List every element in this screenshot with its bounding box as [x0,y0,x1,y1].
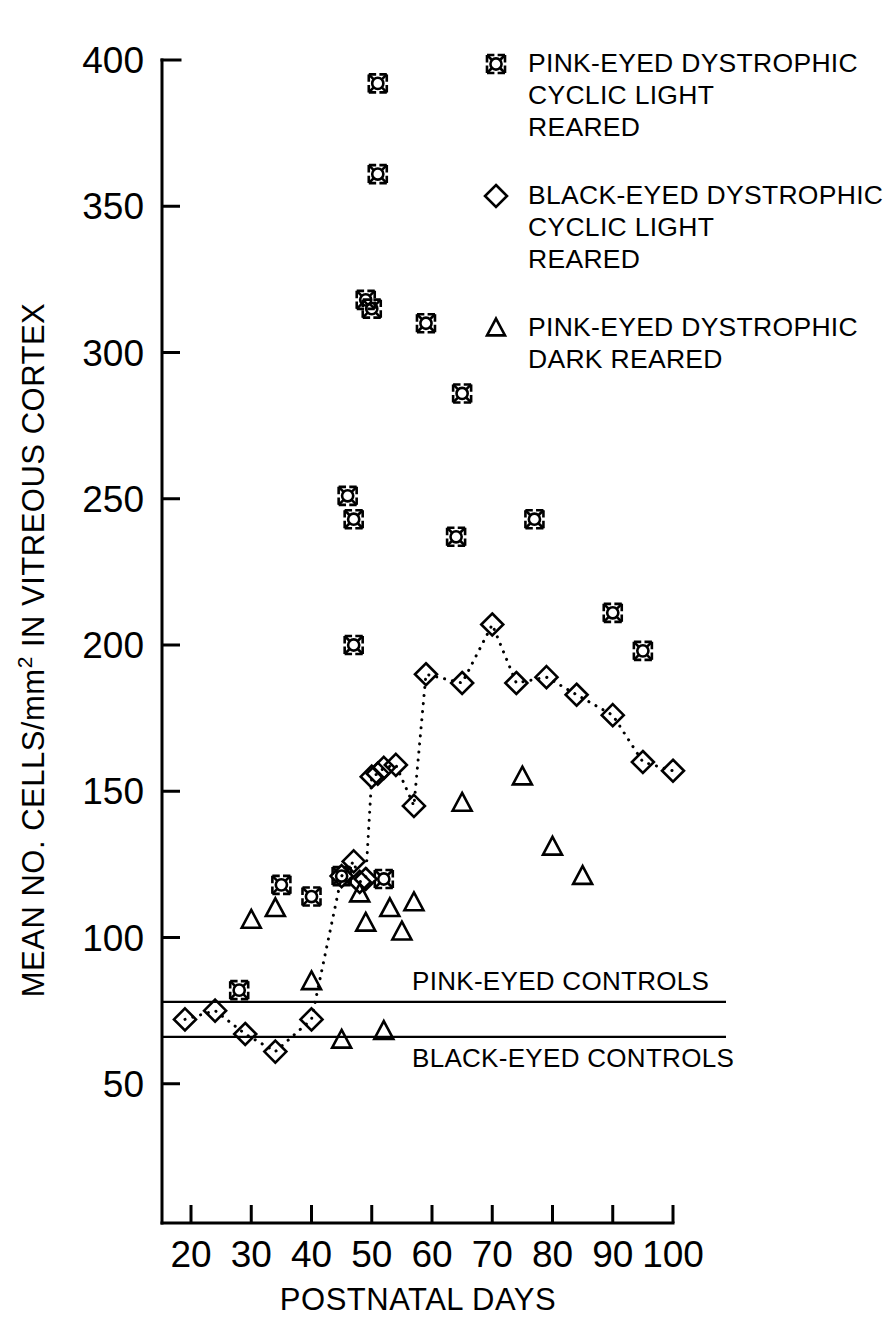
data-point-diamond [632,751,654,773]
data-point-star-square [339,487,357,505]
y-axis-title-tail: IN VITREOUS CORTEX [16,303,51,656]
x-tick-label: 40 [291,1234,332,1275]
x-tick-label: 100 [642,1234,704,1275]
y-tick-labels: 50100150200250300350400 [82,40,144,1105]
data-point-star-square [417,314,435,332]
data-point-star-square [345,636,363,654]
y-axis-title-superscript: 2 [13,656,36,668]
y-tick-label: 200 [82,625,144,666]
x-tick-label: 30 [231,1234,272,1275]
data-point-triangle [392,922,411,940]
data-point-triangle [513,767,532,785]
data-point-diamond [566,684,588,706]
x-axis-title: POSTNATAL DAYS [280,1282,556,1317]
x-tick-label: 90 [592,1234,633,1275]
reference-line-label: PINK-EYED CONTROLS [412,966,709,996]
x-tick-label: 20 [170,1234,211,1275]
y-axis-title: MEAN NO. CELLS/mm2 IN VITREOUS CORTEX [13,303,51,998]
data-point-triangle [242,910,261,928]
data-point-triangle [453,793,472,811]
data-point-star-square [604,604,622,622]
data-point-triangle [380,898,399,916]
legend-label-1-line-1: CYCLIC LIGHT [528,212,714,242]
data-point-star-square [303,888,321,906]
data-point-star-square [453,384,471,402]
legend-label-2-line-1: DARK REARED [528,344,723,374]
data-point-triangle [543,837,562,855]
x-tick-labels: 2030405060708090100 [170,1234,703,1275]
data-point-star-square [634,642,652,660]
legend-label-0-line-0: PINK-EYED DYSTROPHIC [528,48,858,78]
data-point-triangle [302,971,321,989]
y-tick-label: 400 [82,40,144,81]
x-tick-label: 80 [532,1234,573,1275]
data-point-diamond [415,663,437,685]
x-tick-label: 50 [351,1234,392,1275]
legend-label-2-line-0: PINK-EYED DYSTROPHIC [528,312,858,342]
legend-marker-2 [487,319,505,336]
svg-text:MEAN NO. CELLS/mm2 IN VITREOUS: MEAN NO. CELLS/mm2 IN VITREOUS CORTEX [13,303,51,998]
scatter-plot: 50100150200250300350400 2030405060708090… [0,0,884,1328]
y-tick-label: 150 [82,771,144,812]
data-point-star-square [369,165,387,183]
reference-line-label: BLACK-EYED CONTROLS [412,1043,734,1073]
data-point-star-square [272,876,290,894]
series-2-markers [242,767,592,1048]
data-point-diamond [481,614,503,636]
x-tick-label: 60 [411,1234,452,1275]
legend-marker-1 [485,185,507,207]
y-tick-label: 250 [82,479,144,520]
legend-marker-0 [487,55,505,73]
legend-label-1-line-0: BLACK-EYED DYSTROPHIC [528,180,883,210]
y-tick-label: 50 [103,1064,144,1105]
data-point-triangle [332,1030,351,1048]
data-point-star-square [525,510,543,528]
data-point-star-square [345,510,363,528]
data-point-triangle [356,913,375,931]
y-tick-label: 300 [82,333,144,374]
data-point-diamond [451,672,473,694]
y-axis-title-main: MEAN NO. CELLS/mm [16,668,51,997]
legend: PINK-EYED DYSTROPHICCYCLIC LIGHTREAREDBL… [485,48,883,374]
x-tick-label: 70 [472,1234,513,1275]
data-point-triangle [404,892,423,910]
reference-line-labels: PINK-EYED CONTROLSBLACK-EYED CONTROLS [412,966,734,1073]
data-point-diamond [403,795,425,817]
legend-label-1-line-2: REARED [528,244,640,274]
data-point-star-square [230,981,248,999]
data-point-star-square [369,74,387,92]
data-point-diamond [602,704,624,726]
data-point-triangle [573,866,592,884]
y-tick-label: 350 [82,186,144,227]
data-point-diamond [234,1023,256,1045]
data-point-star-square [447,528,465,546]
y-tick-label: 100 [82,918,144,959]
data-point-triangle [266,898,285,916]
legend-label-0-line-2: REARED [528,112,640,142]
reference-lines [162,1002,726,1037]
legend-label-0-line-1: CYCLIC LIGHT [528,80,714,110]
figure-container: 50100150200250300350400 2030405060708090… [0,0,884,1328]
